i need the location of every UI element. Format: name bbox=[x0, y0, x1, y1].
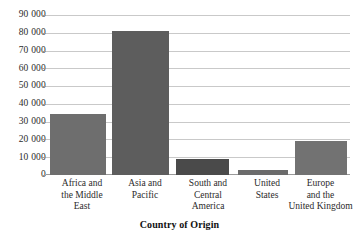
gridline bbox=[46, 86, 350, 87]
x-axis-label-line: Europe bbox=[282, 178, 359, 190]
bar-europe-and-the-united-kingdom bbox=[295, 141, 347, 175]
gridline bbox=[46, 104, 350, 105]
y-axis-tick bbox=[42, 175, 46, 176]
bar-chart: 90 000 80 000 70 000 60 000 50 000 40 00… bbox=[0, 0, 359, 241]
gridline bbox=[46, 33, 350, 34]
bar-asia-and-pacific bbox=[112, 31, 169, 175]
gridline bbox=[46, 51, 350, 52]
x-axis-label-line: America bbox=[170, 201, 246, 213]
x-axis-label-line: and the bbox=[282, 190, 359, 202]
x-axis-label-line: United Kingdom bbox=[282, 201, 359, 213]
gridline bbox=[46, 68, 350, 69]
x-axis-category-label-europe: Europe and the United Kingdom bbox=[282, 178, 359, 213]
bar-africa-and-the-middle-east bbox=[50, 114, 106, 175]
gridline bbox=[46, 15, 350, 16]
x-axis-title: Country of Origin bbox=[0, 219, 359, 230]
bar-south-and-central-america bbox=[176, 159, 229, 175]
x-axis-label-line: East bbox=[42, 201, 122, 213]
plot-area bbox=[46, 15, 350, 175]
bar-united-states bbox=[238, 170, 288, 175]
